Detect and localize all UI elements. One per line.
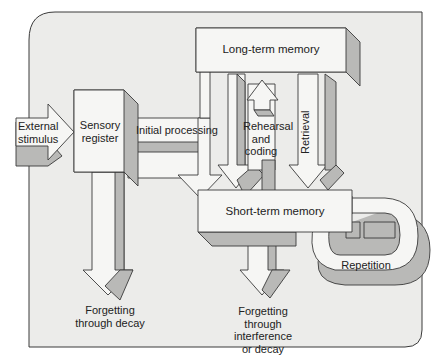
forgetting-decay-label: Forgetting through decay xyxy=(70,304,150,329)
rehearsal-coding-label: Rehearsal and coding xyxy=(243,120,279,158)
fi-label-line4: or decay xyxy=(230,343,296,356)
long-term-memory-label: Long-term memory xyxy=(196,43,346,56)
sensory-label-line2: register xyxy=(78,132,122,145)
external-stimulus-label: External stimulus xyxy=(18,120,58,145)
fi-label-line2: through xyxy=(230,318,296,331)
fi-label-line1: Forgetting xyxy=(230,305,296,318)
external-label-line2: stimulus xyxy=(18,133,58,146)
external-label-line1: External xyxy=(18,120,58,133)
retrieval-label: Retrieval xyxy=(299,111,312,154)
rehearsal-label-line3: coding xyxy=(243,145,279,158)
repetition-label: Repetition xyxy=(336,259,396,272)
sensory-label-line1: Sensory xyxy=(78,119,122,132)
fd-label-line2: through decay xyxy=(70,317,150,330)
rehearsal-label-line2: and xyxy=(243,133,279,146)
fi-label-line3: interference xyxy=(230,330,296,343)
rehearsal-label-line1: Rehearsal xyxy=(243,120,279,133)
forgetting-interference-label: Forgetting through interference or decay xyxy=(230,305,296,355)
sensory-register-label: Sensory register xyxy=(78,119,122,144)
fd-label-line1: Forgetting xyxy=(70,304,150,317)
initial-processing-label: Initial processing xyxy=(136,124,218,137)
short-term-memory-label: Short-term memory xyxy=(198,205,352,218)
